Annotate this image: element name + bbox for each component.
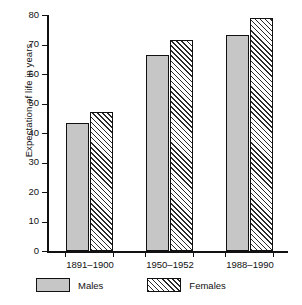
y-axis-tick-label: 10 (28, 215, 39, 226)
y-axis-tick: 10 (42, 222, 47, 223)
y-axis-tick: 30 (42, 163, 47, 164)
legend-item-males[interactable]: Males (36, 278, 103, 292)
x-axis-tick (65, 252, 66, 257)
y-axis-tick: 20 (42, 192, 47, 193)
legend-label-females: Females (189, 280, 225, 291)
x-axis-category-label: 1988–1990 (210, 259, 290, 270)
y-axis-tick: 80 (42, 15, 47, 16)
x-axis-category-label: 1950–1952 (130, 259, 210, 270)
y-axis-line (47, 15, 49, 252)
x-axis-line (47, 251, 288, 253)
x-axis-category-label: 1891–1900 (50, 259, 130, 270)
bar-males[interactable] (146, 55, 169, 251)
y-axis-tick-label: 20 (28, 186, 39, 197)
bar-males[interactable] (226, 35, 249, 251)
y-axis-tick-label: 30 (28, 156, 39, 167)
legend-item-females[interactable]: Females (147, 278, 225, 292)
bar-chart-figure: Expectation of life in years 0 10 20 30 … (0, 0, 302, 305)
legend: Males Females (36, 278, 226, 292)
legend-swatch-males-icon (36, 278, 70, 292)
y-axis-tick-label: 60 (28, 68, 39, 79)
y-axis-tick-label: 80 (28, 9, 39, 20)
x-axis-tick (145, 252, 146, 257)
y-axis-tick-label: 70 (28, 38, 39, 49)
x-axis-tick (193, 252, 194, 257)
plot-area: 0 10 20 30 40 50 60 70 80 (47, 15, 288, 251)
x-axis-tick (225, 252, 226, 257)
y-axis-tick: 40 (42, 133, 47, 134)
x-axis-tick (273, 252, 274, 257)
bar-females[interactable] (90, 112, 113, 251)
bar-group: 1988–1990 (226, 15, 273, 251)
bar-females[interactable] (170, 40, 193, 251)
y-axis-tick: 60 (42, 74, 47, 75)
y-axis-tick-label: 0 (34, 245, 39, 256)
bar-group: 1891–1900 (66, 15, 113, 251)
bar-group: 1950–1952 (146, 15, 193, 251)
legend-label-males: Males (78, 280, 103, 291)
bar-males[interactable] (66, 123, 89, 251)
y-axis-tick-label: 50 (28, 97, 39, 108)
x-axis-tick (113, 252, 114, 257)
y-axis-tick-label: 40 (28, 127, 39, 138)
y-axis-tick: 50 (42, 104, 47, 105)
legend-swatch-females-icon (147, 278, 181, 292)
bar-females[interactable] (250, 18, 273, 251)
y-axis-tick: 70 (42, 45, 47, 46)
y-axis-tick: 0 (42, 251, 47, 252)
